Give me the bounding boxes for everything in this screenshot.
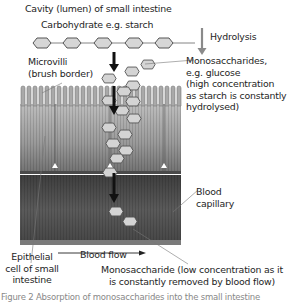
figure-caption: Figure 2 Absorption of monosaccharides i… (1, 292, 260, 304)
starch-chain (33, 38, 195, 48)
monosaccharide-low-label: Monosaccharide (low concentration as it … (94, 264, 290, 287)
glucose-unit-icon (33, 38, 51, 48)
glucose-unit-icon (125, 38, 143, 48)
glucose-molecule-icon (141, 60, 155, 69)
glucose-unit-icon (155, 38, 173, 48)
blood-capillary (20, 175, 181, 245)
microvilli-icon (21, 86, 181, 106)
hydrolysis-label: Hydrolysis (210, 31, 256, 43)
hydrolysis-arrow-icon (198, 28, 207, 55)
glucose-molecule-icon (110, 154, 124, 163)
glucose-molecule-icon (125, 67, 139, 76)
blood-capillary-label: Blood capillary (196, 186, 234, 209)
glucose-molecule-icon (126, 97, 140, 106)
blood-flow-label: Blood flow (80, 249, 127, 261)
monosaccharides-high-label: Monosaccharides, e.g. glucose (high conc… (186, 55, 286, 113)
microvilli-label: Microvilli (brush border) (28, 56, 93, 79)
epithelial-cell-label: Epithelial cell of small intestine (3, 251, 61, 286)
epithelium (20, 86, 181, 174)
glucose-molecule-icon (102, 123, 116, 132)
glucose-molecule-icon (123, 217, 137, 226)
glucose-molecule-icon (127, 114, 141, 123)
glucose-molecule-icon (117, 87, 131, 96)
glucose-unit-icon (63, 38, 81, 48)
glucose-molecule-icon (109, 207, 123, 216)
glucose-molecule-icon (106, 139, 120, 148)
carbohydrate-label: Carbohydrate e.g. starch (41, 19, 153, 31)
glucose-molecule-icon (118, 130, 132, 139)
glucose-unit-icon (94, 38, 112, 48)
glucose-molecule-icon (102, 74, 116, 83)
cavity-label: Cavity (lumen) of small intestine (25, 3, 172, 15)
